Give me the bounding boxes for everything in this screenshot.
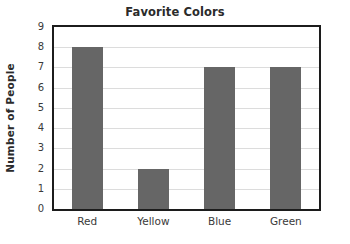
y-axis-tick-label: 2 <box>26 164 44 174</box>
x-axis-tick-label: Green <box>253 215 319 227</box>
x-axis-tick-labels: RedYellowBlueGreen <box>52 213 321 233</box>
y-axis-tick-label: 3 <box>26 143 44 153</box>
y-axis-tick-label: 4 <box>26 123 44 133</box>
bar <box>138 169 169 209</box>
bar <box>72 47 103 209</box>
bar <box>204 67 235 209</box>
plot-area <box>52 25 321 211</box>
chart-title: Favorite Colors <box>0 5 350 19</box>
bars-group <box>54 27 319 209</box>
y-axis-tick-label: 9 <box>26 22 44 32</box>
y-axis-tick-label: 8 <box>26 42 44 52</box>
x-axis-tick-label: Blue <box>187 215 253 227</box>
y-axis-tick-label: 0 <box>26 204 44 214</box>
y-axis-tick-label: 5 <box>26 103 44 113</box>
x-axis-tick-label: Red <box>54 215 120 227</box>
y-axis-tick-label: 6 <box>26 83 44 93</box>
y-axis-tick-labels: 0123456789 <box>26 25 48 211</box>
y-axis-title-text: Number of People <box>4 63 16 173</box>
plot-inner <box>54 27 319 209</box>
bar-chart: Favorite Colors Number of People 0123456… <box>0 0 350 244</box>
y-axis-tick-label: 7 <box>26 62 44 72</box>
bar <box>270 67 301 209</box>
y-axis-tick-label: 1 <box>26 184 44 194</box>
x-axis-tick-label: Yellow <box>120 215 186 227</box>
y-axis-title: Number of People <box>0 25 20 211</box>
